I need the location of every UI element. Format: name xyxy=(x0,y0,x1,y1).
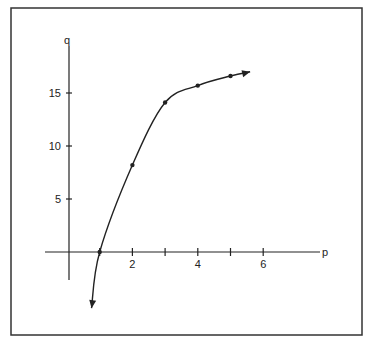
x-tick-label: 2 xyxy=(129,258,135,270)
x-tick-label: 6 xyxy=(260,258,266,270)
axes xyxy=(45,46,320,280)
y-axis-label: q xyxy=(64,34,70,46)
arrow-start-icon xyxy=(89,300,96,308)
data-point xyxy=(196,83,200,87)
curve-line xyxy=(92,72,251,308)
y-tick-label: 10 xyxy=(49,140,61,152)
x-axis-label: p xyxy=(322,246,328,258)
x-tick-label: 4 xyxy=(195,258,201,270)
curve xyxy=(89,70,250,308)
chart-frame xyxy=(11,8,362,335)
data-point xyxy=(130,163,134,167)
data-point xyxy=(228,74,232,78)
y-tick-label: 5 xyxy=(55,193,61,205)
data-point xyxy=(98,250,102,254)
data-point xyxy=(163,100,167,104)
y-tick-label: 15 xyxy=(49,87,61,99)
chart: 24651015 q p xyxy=(0,0,370,342)
